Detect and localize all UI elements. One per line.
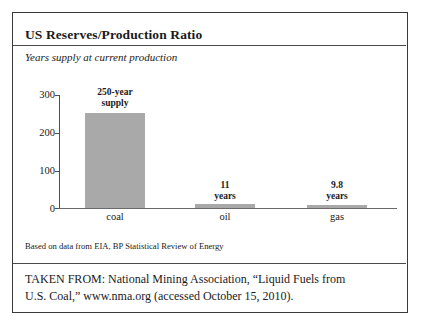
source-note: Based on data from EIA, BP Statistical R… bbox=[25, 241, 224, 251]
bar-label-coal: 250-year supply bbox=[85, 87, 145, 108]
attribution-line-2: U.S. Coal,” www.nma.org (accessed Octobe… bbox=[25, 288, 385, 305]
bar-gas bbox=[307, 205, 367, 209]
bar-label-gas-line2: years bbox=[307, 191, 367, 202]
bar-label-oil-line2: years bbox=[195, 191, 255, 202]
bar-label-coal-line2: supply bbox=[85, 98, 145, 109]
title-divider-rule bbox=[13, 45, 406, 46]
x-axis-line bbox=[59, 208, 397, 209]
x-tick-label-gas: gas bbox=[330, 211, 344, 222]
chart-figure-page: US Reserves/Production Ratio Years suppl… bbox=[0, 0, 422, 327]
bar-label-coal-line1: 250-year bbox=[85, 87, 145, 98]
bar-label-gas-line1: 9.8 bbox=[307, 180, 367, 191]
plot-area: 300 200 100 0 250-year su bbox=[25, 85, 397, 223]
bar-oil bbox=[195, 204, 255, 208]
figure-frame: US Reserves/Production Ratio Years suppl… bbox=[12, 12, 408, 313]
y-axis-tick-labels: 300 200 100 0 bbox=[25, 85, 55, 209]
y-tick-label-0: 0 bbox=[50, 204, 55, 215]
y-tick-label-300: 300 bbox=[39, 90, 55, 101]
y-tick-label-100: 100 bbox=[39, 166, 55, 177]
bar-label-oil: 11 years bbox=[195, 180, 255, 201]
bar-coal bbox=[85, 113, 145, 208]
y-tick-mark-0 bbox=[55, 208, 59, 209]
x-axis-tick-labels: coal oil gas bbox=[59, 211, 397, 227]
chart-title: US Reserves/Production Ratio bbox=[25, 27, 202, 43]
bar-label-gas: 9.8 years bbox=[307, 180, 367, 201]
attribution-line-1: TAKEN FROM: National Mining Association,… bbox=[25, 271, 385, 288]
chart-subtitle: Years supply at current production bbox=[25, 51, 177, 63]
chart-axes: 250-year supply 11 years 9.8 years bbox=[59, 95, 397, 209]
x-tick-label-oil: oil bbox=[219, 211, 230, 222]
attribution-note: TAKEN FROM: National Mining Association,… bbox=[25, 271, 385, 306]
y-tick-label-200: 200 bbox=[39, 128, 55, 139]
bar-label-oil-line1: 11 bbox=[195, 180, 255, 191]
x-tick-label-coal: coal bbox=[106, 211, 124, 222]
attribution-divider-rule bbox=[13, 263, 406, 264]
